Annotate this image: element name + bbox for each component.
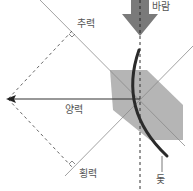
wind-label: 바람: [152, 2, 170, 12]
resultant-label: 양력: [65, 105, 83, 115]
sail-label: 돛: [156, 175, 165, 185]
force-diagram: [0, 0, 193, 191]
dashed-line-lower: [8, 99, 72, 167]
drag-label: 추력: [77, 19, 95, 29]
lateral-label: 횡력: [79, 169, 97, 179]
right-angle-mark-lower: [69, 161, 75, 164]
dashed-line-upper: [8, 31, 72, 99]
drag-axis-line: [40, 0, 185, 146]
right-angle-mark-upper: [69, 34, 75, 37]
